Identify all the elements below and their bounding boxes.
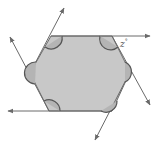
hexagon-diagram: z°	[0, 0, 158, 145]
angle-arc-right	[125, 62, 131, 82]
angle-label-z: z°	[119, 37, 128, 49]
angle-arc-left	[24, 62, 36, 84]
diagram-canvas: z°	[0, 0, 158, 145]
